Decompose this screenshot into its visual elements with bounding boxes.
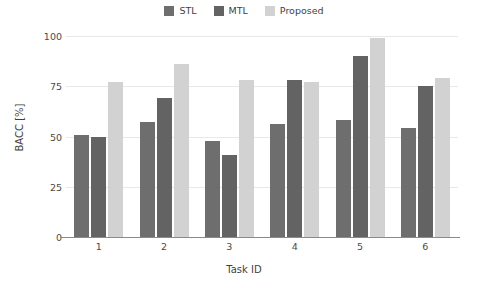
legend-swatch-icon <box>214 6 224 16</box>
legend-label: MTL <box>229 6 248 16</box>
y-tick-label: 100 <box>28 31 62 42</box>
legend-entry-proposed[interactable]: Proposed <box>265 6 324 16</box>
x-tick-label: 4 <box>275 241 315 252</box>
y-tick-label: 50 <box>28 131 62 142</box>
bar-stl-task-5[interactable] <box>336 120 351 237</box>
y-tick-label: 0 <box>28 232 62 243</box>
bar-mtl-task-1[interactable] <box>91 137 106 238</box>
plot-area <box>66 36 458 237</box>
legend-label: Proposed <box>280 6 324 16</box>
gridline <box>66 36 458 37</box>
y-axis-label: BACC [%] <box>14 83 25 173</box>
legend-swatch-icon <box>265 6 275 16</box>
legend-entry-stl[interactable]: STL <box>164 6 196 16</box>
bar-stl-task-3[interactable] <box>205 141 220 237</box>
bar-proposed-task-4[interactable] <box>304 82 319 237</box>
gridline <box>66 86 458 87</box>
legend-entry-mtl[interactable]: MTL <box>214 6 248 16</box>
legend-label: STL <box>179 6 196 16</box>
bar-proposed-task-3[interactable] <box>239 80 254 237</box>
bar-chart-figure: STLMTLProposed 0255075100 BACC [%] 12345… <box>0 0 488 288</box>
bar-proposed-task-5[interactable] <box>370 38 385 237</box>
y-tick-label: 25 <box>28 181 62 192</box>
gridline <box>66 187 458 188</box>
x-tick-label: 2 <box>144 241 184 252</box>
x-axis-label: Task ID <box>0 264 488 275</box>
bar-group <box>74 36 123 237</box>
bar-mtl-task-2[interactable] <box>157 98 172 237</box>
bar-mtl-task-6[interactable] <box>418 86 433 237</box>
bar-group <box>205 36 254 237</box>
x-tick-label: 3 <box>209 241 249 252</box>
chart-legend: STLMTLProposed <box>0 6 488 16</box>
bar-stl-task-2[interactable] <box>140 122 155 237</box>
x-axis-line <box>60 237 460 238</box>
bar-proposed-task-2[interactable] <box>174 64 189 237</box>
gridline <box>66 137 458 138</box>
x-axis-ticks: 123456 <box>66 241 458 257</box>
x-tick-label: 1 <box>79 241 119 252</box>
bar-group <box>140 36 189 237</box>
bar-proposed-task-1[interactable] <box>108 82 123 237</box>
x-tick-label: 5 <box>340 241 380 252</box>
y-tick-label: 75 <box>28 81 62 92</box>
legend-swatch-icon <box>164 6 174 16</box>
y-axis-ticks: 0255075100 <box>22 0 62 288</box>
bar-group <box>336 36 385 237</box>
x-tick-label: 6 <box>405 241 445 252</box>
bar-mtl-task-5[interactable] <box>353 56 368 237</box>
bar-mtl-task-4[interactable] <box>287 80 302 237</box>
bar-group <box>401 36 450 237</box>
bar-stl-task-1[interactable] <box>74 135 89 238</box>
bar-stl-task-6[interactable] <box>401 128 416 237</box>
bar-proposed-task-6[interactable] <box>435 78 450 237</box>
bar-mtl-task-3[interactable] <box>222 155 237 237</box>
bar-group <box>270 36 319 237</box>
bar-stl-task-4[interactable] <box>270 124 285 237</box>
